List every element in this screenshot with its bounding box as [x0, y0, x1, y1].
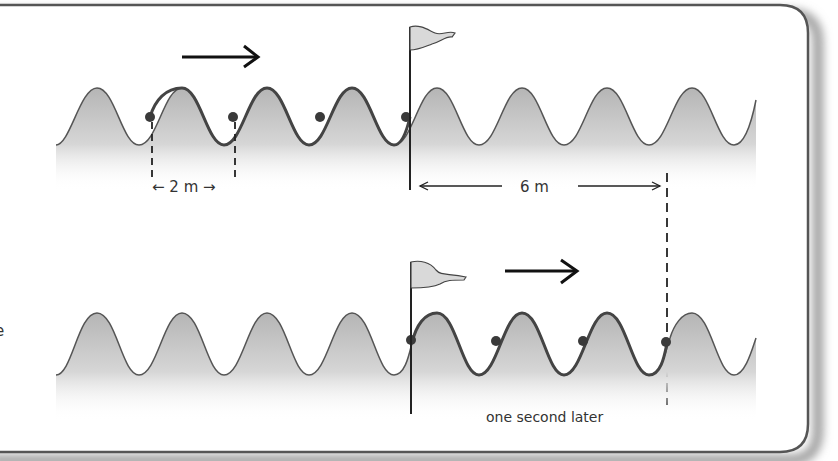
- wave-point: [315, 112, 325, 122]
- wave-point: [491, 336, 501, 346]
- diagram-canvas: [0, 0, 838, 461]
- wave-point: [578, 336, 588, 346]
- time-note-label: one second later: [486, 409, 603, 425]
- wave-point: [145, 112, 155, 122]
- wave-point: [661, 337, 671, 347]
- wavelength-label: ← 2 m →: [152, 178, 216, 196]
- wave-point: [228, 112, 238, 122]
- distance-label: 6 m: [520, 178, 549, 196]
- wave-diagram: ← 2 m → 6 m one second later e: [0, 0, 838, 461]
- cropped-text: e: [0, 322, 4, 340]
